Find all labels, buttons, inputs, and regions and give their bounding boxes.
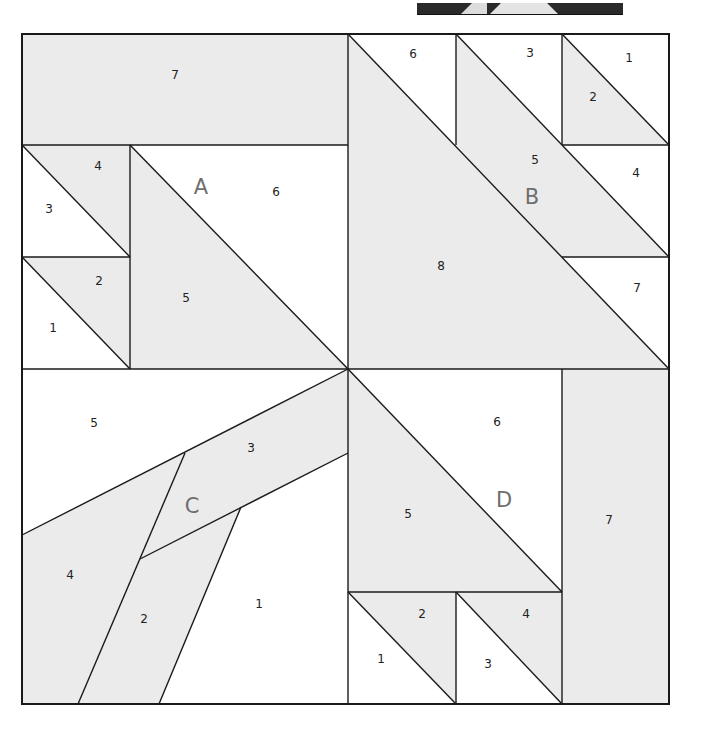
section-a: 7 4 3 2 1 5 6 A xyxy=(22,34,348,369)
section-b-label: B xyxy=(525,185,539,209)
section-a-piece-7-label: 7 xyxy=(171,68,179,82)
section-b: 6 3 1 2 5 4 8 7 B xyxy=(348,34,669,369)
section-a-piece-5-label: 5 xyxy=(182,291,190,305)
section-a-piece-2-label: 2 xyxy=(95,274,103,288)
section-d: 6 5 7 2 4 1 3 D xyxy=(348,369,669,704)
section-d-label: D xyxy=(496,488,512,512)
section-b-piece-7-label: 7 xyxy=(633,281,641,295)
section-d-piece-7 xyxy=(562,369,669,704)
section-a-piece-1-label: 1 xyxy=(49,321,57,335)
section-d-piece-5-label: 5 xyxy=(404,507,412,521)
section-b-piece-6-label: 6 xyxy=(409,47,417,61)
section-c-piece-4-label: 4 xyxy=(66,568,74,582)
section-a-piece-6-label: 6 xyxy=(272,185,280,199)
section-d-piece-4-label: 4 xyxy=(522,607,530,621)
section-c-label: C xyxy=(185,494,200,518)
section-d-piece-3-label: 3 xyxy=(484,657,492,671)
section-a-label: A xyxy=(194,175,209,199)
section-c-piece-3-label: 3 xyxy=(247,441,255,455)
section-b-piece-3-label: 3 xyxy=(526,46,534,60)
section-b-piece-5-label: 5 xyxy=(531,153,539,167)
section-c-piece-1-label: 1 xyxy=(255,597,263,611)
section-b-piece-2-label: 2 xyxy=(589,90,597,104)
section-b-piece-8-label: 8 xyxy=(437,259,445,273)
section-b-piece-1-label: 1 xyxy=(625,51,633,65)
foundation-paper-piecing-diagram: 7 4 3 2 1 5 6 A 6 3 1 2 5 4 8 7 B xyxy=(0,0,703,739)
section-c: 5 3 4 2 1 C xyxy=(22,369,348,704)
section-d-piece-6-label: 6 xyxy=(493,415,501,429)
section-d-piece-7-label: 7 xyxy=(605,513,613,527)
section-b-piece-4-label: 4 xyxy=(632,166,640,180)
section-c-piece-2-label: 2 xyxy=(140,612,148,626)
section-d-piece-2-label: 2 xyxy=(418,607,426,621)
section-a-piece-3-label: 3 xyxy=(45,202,53,216)
section-a-piece-4-label: 4 xyxy=(94,159,102,173)
section-c-piece-5-label: 5 xyxy=(90,416,98,430)
section-a-piece-7 xyxy=(22,34,348,145)
section-d-piece-1-label: 1 xyxy=(377,652,385,666)
